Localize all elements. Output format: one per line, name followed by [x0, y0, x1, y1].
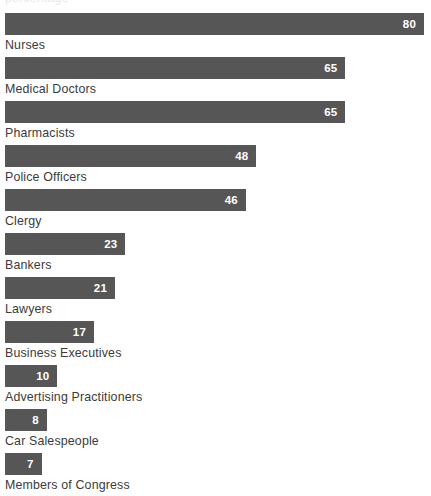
bar-group: 80Nurses [0, 13, 431, 57]
bar[interactable]: 17 [5, 321, 94, 343]
bar-value-label: 8 [32, 409, 47, 431]
bar-group: 7Members of Congress [0, 453, 431, 496]
bar-group: 17Business Executives [0, 321, 431, 365]
bar[interactable]: 65 [5, 101, 345, 123]
bar-category-label: Members of Congress [5, 476, 130, 494]
bar-category-label: Lawyers [5, 300, 52, 318]
bar-list: 80Nurses65Medical Doctors65Pharmacists48… [0, 13, 431, 496]
bar-value-label: 10 [36, 365, 57, 387]
bar-group: 65Pharmacists [0, 101, 431, 145]
bar-value-label: 7 [27, 453, 42, 475]
bar[interactable]: 8 [5, 409, 47, 431]
bar-group: 10Advertising Practitioners [0, 365, 431, 409]
bar-category-label: Business Executives [5, 344, 121, 362]
bar[interactable]: 21 [5, 277, 115, 299]
bar-category-label: Nurses [5, 36, 45, 54]
bar-value-label: 17 [73, 321, 94, 343]
bar-value-label: 48 [235, 145, 256, 167]
bar-category-label: Bankers [5, 256, 52, 274]
bar-category-label: Car Salespeople [5, 432, 99, 450]
bar[interactable]: 48 [5, 145, 256, 167]
bar-group: 8Car Salespeople [0, 409, 431, 453]
bar-group: 48Police Officers [0, 145, 431, 189]
clipped-chart-title: percentage [5, 0, 69, 5]
bar-group: 46Clergy [0, 189, 431, 233]
bar-value-label: 65 [324, 57, 345, 79]
bar-category-label: Police Officers [5, 168, 87, 186]
bar-category-label: Advertising Practitioners [5, 388, 142, 406]
bar-category-label: Medical Doctors [5, 80, 96, 98]
bar[interactable]: 80 [5, 13, 424, 35]
bar-category-label: Pharmacists [5, 124, 75, 142]
bar[interactable]: 23 [5, 233, 125, 255]
bar-group: 21Lawyers [0, 277, 431, 321]
bar[interactable]: 46 [5, 189, 246, 211]
bar-value-label: 21 [94, 277, 115, 299]
bar[interactable]: 10 [5, 365, 57, 387]
bar-group: 23Bankers [0, 233, 431, 277]
bar[interactable]: 7 [5, 453, 42, 475]
bar-value-label: 46 [225, 189, 246, 211]
bar[interactable]: 65 [5, 57, 345, 79]
bar-value-label: 23 [104, 233, 125, 255]
bar-value-label: 65 [324, 101, 345, 123]
bar-value-label: 80 [403, 13, 424, 35]
bar-group: 65Medical Doctors [0, 57, 431, 101]
bar-category-label: Clergy [5, 212, 42, 230]
